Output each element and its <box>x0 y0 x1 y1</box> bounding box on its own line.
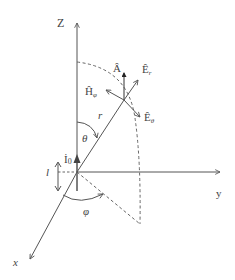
e-r-label: Êr <box>142 63 152 77</box>
r-label: r <box>98 109 103 121</box>
e-theta-label: Êθ <box>144 111 155 125</box>
i0-label: İ0 <box>64 153 72 166</box>
y-axis-label: y <box>216 187 222 199</box>
a-hat-label: Â <box>113 62 121 74</box>
vector-h-phi <box>106 90 124 100</box>
vector-e-r <box>124 80 138 100</box>
h-phi-label: Ĥφ <box>85 85 97 99</box>
z-axis-label: Z <box>57 16 64 30</box>
x-axis-label: x <box>12 256 18 268</box>
phi-arc <box>63 194 103 200</box>
dipole-diagram: Z y x Â Êr Ĥφ Êθ r θ φ İ0 l <box>0 0 235 280</box>
phi-label: φ <box>83 205 89 217</box>
vector-e-theta <box>124 100 140 117</box>
theta-label: θ <box>82 132 88 144</box>
current-arrow-icon <box>74 154 81 163</box>
l-label: l <box>46 166 49 178</box>
x-axis <box>30 172 77 259</box>
